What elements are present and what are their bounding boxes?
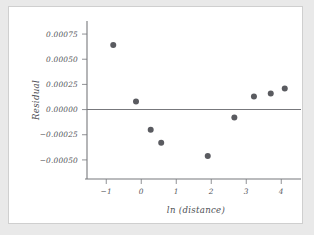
data-point — [158, 140, 164, 146]
data-point — [205, 153, 211, 159]
y-axis-tick-labels: 0.000750.000500.000250.00000−0.00025−0.0… — [40, 30, 78, 165]
data-point — [110, 42, 116, 48]
x-tick-label: 2 — [208, 187, 214, 196]
y-tick-label: 0.00075 — [46, 30, 78, 39]
data-point — [231, 115, 237, 121]
y-tick-label: −0.00025 — [40, 130, 78, 139]
x-tick-label: 4 — [278, 187, 284, 196]
y-tick-label: 0.00000 — [46, 105, 78, 114]
x-axis-ticks — [106, 179, 281, 184]
data-point — [251, 93, 257, 99]
data-point — [282, 85, 288, 91]
data-point — [268, 90, 274, 96]
figure-panel: 0.000750.000500.000250.00000−0.00025−0.0… — [8, 6, 303, 224]
x-tick-label: −1 — [101, 187, 112, 196]
x-tick-label: 1 — [174, 187, 179, 196]
y-tick-label: 0.00025 — [46, 80, 78, 89]
data-point — [133, 99, 139, 105]
x-tick-label: 3 — [244, 187, 249, 196]
screenshot-root: 0.000750.000500.000250.00000−0.00025−0.0… — [0, 0, 314, 235]
x-tick-label: 0 — [139, 187, 144, 196]
data-points — [110, 42, 288, 159]
data-point — [148, 127, 154, 133]
y-tick-label: −0.00050 — [40, 156, 78, 165]
y-axis-ticks — [82, 34, 87, 160]
y-axis-title: Residual — [31, 80, 41, 121]
y-tick-label: 0.00050 — [46, 55, 78, 64]
residual-scatter-plot: 0.000750.000500.000250.00000−0.00025−0.0… — [9, 7, 304, 225]
x-axis-tick-labels: −101234 — [101, 187, 284, 196]
x-axis-title: ln (distance) — [167, 205, 225, 215]
chart-canvas: 0.000750.000500.000250.00000−0.00025−0.0… — [9, 7, 304, 225]
